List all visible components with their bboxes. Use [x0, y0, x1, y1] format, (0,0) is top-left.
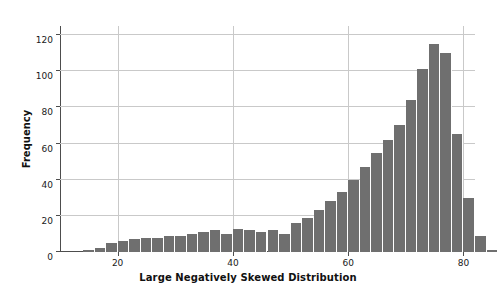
histogram-bar	[164, 236, 176, 252]
histogram-bar	[337, 192, 349, 252]
y-axis-tick	[56, 70, 60, 71]
histogram-bar	[302, 218, 314, 252]
histogram-bar	[291, 223, 303, 252]
histogram-bar	[106, 243, 118, 252]
histogram-bar	[487, 250, 498, 252]
x-axis-tick	[118, 252, 119, 256]
histogram-bar	[325, 201, 337, 252]
histogram-bar	[256, 232, 268, 252]
y-axis-tick	[56, 106, 60, 107]
histogram-bar	[463, 198, 475, 252]
y-axis-tick	[56, 34, 60, 35]
x-axis-tick-label: 60	[342, 258, 353, 268]
gridline-horizontal	[60, 70, 475, 71]
histogram-bar	[394, 125, 406, 252]
histogram-bar	[440, 53, 452, 252]
plot-area: 020406080100120 20406080	[60, 26, 475, 252]
histogram-bar	[371, 153, 383, 252]
histogram-bar	[175, 236, 187, 252]
histogram-bar	[475, 236, 487, 252]
x-axis-tick-label: 80	[458, 258, 469, 268]
histogram-bar	[268, 230, 280, 252]
histogram-bar	[233, 229, 245, 253]
y-axis-title-container: Frequency	[18, 0, 34, 290]
gridline-vertical	[118, 26, 119, 252]
histogram-bar	[221, 234, 233, 252]
x-axis-tick-label: 40	[227, 258, 238, 268]
histogram-bar	[187, 234, 199, 252]
histogram-bar	[118, 241, 130, 252]
y-axis-tick	[56, 251, 60, 252]
y-axis-title: Frequency	[21, 110, 32, 169]
histogram-bar	[129, 239, 141, 252]
histogram-bar	[452, 134, 464, 252]
histogram-bar	[95, 248, 107, 252]
y-axis-tick	[56, 143, 60, 144]
histogram-bar	[383, 140, 395, 252]
histogram-bar	[198, 232, 210, 252]
y-axis-tick	[56, 215, 60, 216]
histogram-bar	[429, 44, 441, 252]
histogram-bar	[348, 180, 360, 252]
histogram-bar	[417, 69, 429, 252]
x-axis-tick-label: 20	[112, 258, 123, 268]
x-axis-tick	[348, 252, 349, 256]
histogram-bar	[360, 167, 372, 252]
histogram-bar	[244, 230, 256, 252]
gridline-horizontal	[60, 34, 475, 35]
gridline-vertical	[233, 26, 234, 252]
histogram-bar	[279, 234, 291, 252]
histogram-bar	[314, 210, 326, 252]
histogram-bar	[210, 230, 222, 252]
histogram-bar	[141, 238, 153, 252]
x-axis-title: Large Negatively Skewed Distribution	[0, 272, 496, 283]
y-axis-tick	[56, 179, 60, 180]
x-axis-tick	[233, 252, 234, 256]
histogram-bar	[406, 100, 418, 252]
histogram-bar	[152, 238, 164, 252]
x-axis-tick	[463, 252, 464, 256]
histogram-bar	[83, 250, 95, 252]
